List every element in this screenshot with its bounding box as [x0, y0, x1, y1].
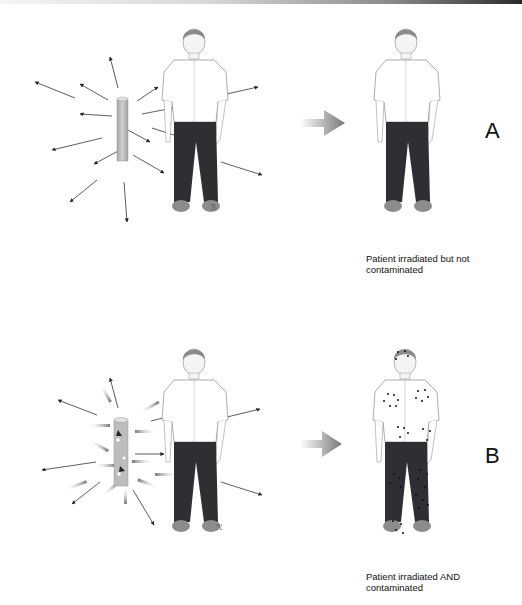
transition-arrow-a	[300, 110, 345, 136]
panel-letter-a: A	[485, 118, 500, 144]
artist-signature-icon: ℛ	[216, 523, 223, 532]
caption-b: Patient irradiated AND contaminated	[366, 571, 522, 593]
panel-letter-b: B	[485, 443, 500, 469]
caption-a-line1: Patient irradiated but not	[366, 253, 522, 264]
panel-a-source-scene: ℛ	[35, 29, 262, 222]
patient-figure-b-right	[373, 349, 439, 532]
sealed-source-icon	[117, 97, 128, 161]
patient-figure-b-left	[162, 349, 228, 532]
contaminated-patient	[373, 349, 439, 534]
artist-signature-icon: ℛ	[210, 203, 217, 212]
illustration: ℛ	[0, 0, 522, 605]
transition-arrow-b	[300, 431, 342, 457]
patient-figure-a-right	[374, 29, 440, 212]
caption-a: Patient irradiated but not contaminated	[366, 253, 522, 275]
caption-b-line1: Patient irradiated AND	[366, 571, 522, 582]
panel-b-source-scene: ℛ	[42, 349, 262, 532]
caption-a-line2: contaminated	[366, 264, 522, 275]
leaking-source-icon	[114, 418, 128, 487]
radiation-rays-a	[35, 57, 262, 222]
patient-figure-a-left	[162, 29, 228, 212]
caption-b-line2: contaminated	[366, 582, 522, 593]
radiation-rays-b	[42, 378, 262, 525]
